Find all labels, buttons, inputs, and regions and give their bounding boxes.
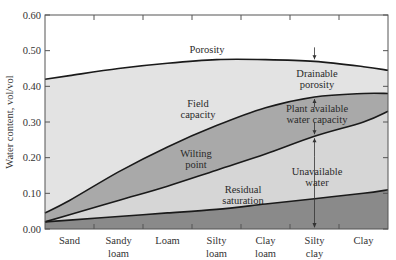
x-category-label: Clay: [354, 235, 375, 246]
x-category-label: loam: [206, 248, 227, 259]
annotation-wilting-point-2: point: [185, 159, 207, 170]
x-category-label: Sandy: [105, 235, 132, 246]
x-category-label: loam: [255, 248, 276, 259]
annotation-plant-available-2: water capacity: [287, 114, 349, 125]
x-category-label: Silty: [207, 235, 228, 246]
annotation-drainable-porosity-1: Drainable: [296, 68, 338, 79]
y-tick-label: 0.30: [23, 117, 41, 128]
y-tick-label: 0.60: [23, 10, 41, 21]
annotation-unavailable-water-1: Unavailable: [292, 166, 343, 177]
chart-bands: [45, 59, 388, 229]
soil-water-chart: 0.000.100.200.300.400.500.60 SandSandylo…: [0, 0, 396, 260]
x-category-label: Silty: [305, 235, 326, 246]
annotation-drainable-porosity-2: porosity: [300, 79, 335, 90]
annotation-unavailable-water-2: water: [305, 177, 329, 188]
annotation-field-capacity-1: Field: [187, 98, 209, 109]
x-category-label: Loam: [155, 235, 180, 246]
x-category-label: loam: [108, 248, 129, 259]
x-category-label: Sand: [59, 235, 81, 246]
x-category-label: Clay: [256, 235, 277, 246]
annotation-residual-saturation-2: saturation: [222, 195, 264, 206]
annotation-porosity: Porosity: [189, 44, 225, 55]
y-tick-label: 0.40: [23, 81, 41, 92]
annotation-plant-available-1: Plant available: [286, 103, 348, 114]
annotation-field-capacity-2: capacity: [181, 109, 217, 120]
y-tick-label: 0.50: [23, 45, 41, 56]
y-axis-label: Water content, vol/vol: [4, 75, 15, 168]
annotation-residual-saturation-1: Residual: [225, 184, 262, 195]
annotation-wilting-point-1: Wilting: [180, 148, 212, 159]
y-tick-label: 0.20: [23, 152, 41, 163]
arrow-porosity-head: [313, 55, 317, 59]
y-tick-label: 0.10: [23, 188, 41, 199]
y-tick-label: 0.00: [23, 224, 41, 235]
x-category-label: clay: [306, 248, 324, 259]
